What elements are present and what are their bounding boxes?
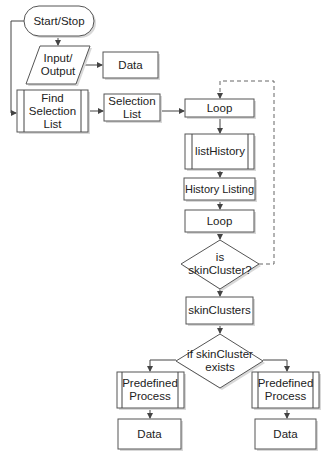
list-history-label: listHistory <box>192 134 248 169</box>
input-output-label: Input/ Output <box>36 46 80 84</box>
find-selection-list-label: Find Selection List <box>24 90 81 132</box>
selection-list-label: Selection List <box>104 94 160 121</box>
predefined-process-left-label: Predefined Process <box>122 372 178 408</box>
loop-start-label: Loop <box>185 99 254 117</box>
predefined-process-right-label: Predefined Process <box>258 372 313 408</box>
start-stop-label: Start/Stop <box>24 6 94 36</box>
history-listing-label: History Listing <box>184 178 255 200</box>
if-skincluster-exists-label: if skinCluster exists <box>186 336 254 386</box>
skinclusters-label: skinClusters <box>186 297 253 324</box>
is-skincluster-label: is skinCluster? <box>184 244 256 284</box>
data-left-label: Data <box>118 419 181 449</box>
data-right-label: Data <box>255 419 316 449</box>
loop-end-label: Loop <box>185 210 254 232</box>
data-top-label: Data <box>103 52 158 78</box>
